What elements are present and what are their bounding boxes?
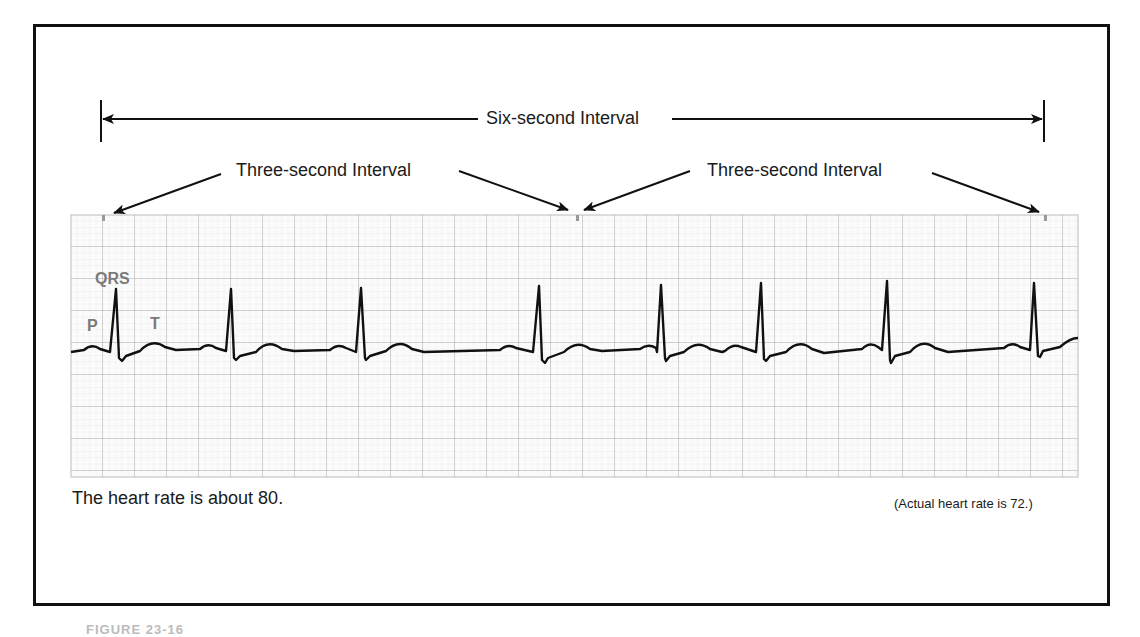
three-second-interval-label-left: Three-second Interval [236, 160, 411, 180]
three-second-interval-label-right: Three-second Interval [707, 160, 882, 180]
qrs-wave-label: QRS [95, 271, 130, 287]
t-wave-label: T [150, 316, 160, 332]
actual-heart-rate-text: (Actual heart rate is 72.) [894, 494, 1033, 514]
p-wave-label: P [87, 318, 98, 334]
estimated-heart-rate-text: The heart rate is about 80. [72, 488, 283, 508]
six-second-interval-label: Six-second Interval [480, 108, 645, 128]
figure-caption: FIGURE 23-16 [86, 622, 184, 637]
